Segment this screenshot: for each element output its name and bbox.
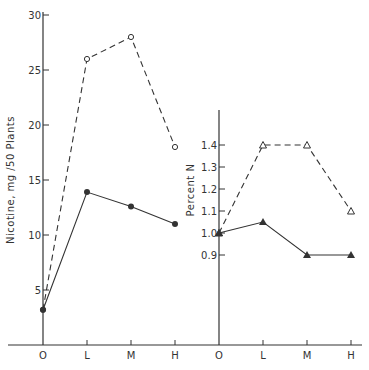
open-triangle-marker bbox=[348, 208, 355, 215]
y-tick-label: 1.4 bbox=[201, 140, 217, 151]
y-tick-label: 1.2 bbox=[201, 184, 217, 195]
y-tick-label: 1.1 bbox=[201, 206, 217, 217]
x-tick-label: M bbox=[303, 350, 312, 361]
x-tick-label: H bbox=[171, 350, 179, 361]
y-tick-label: 1.0 bbox=[201, 228, 217, 239]
filled-circle-marker bbox=[128, 203, 134, 209]
filled-circle-marker bbox=[40, 307, 46, 313]
x-tick-label: L bbox=[84, 350, 90, 361]
open-circle-marker bbox=[172, 144, 177, 149]
open-circle-marker bbox=[84, 56, 89, 61]
y-tick-label: 30 bbox=[28, 10, 41, 21]
open-circle-marker bbox=[128, 34, 133, 39]
x-tick-label: H bbox=[347, 350, 355, 361]
x-tick-label: O bbox=[215, 350, 223, 361]
chart-canvas: 51015202530OLMHNicotine, mg /50 Plants0.… bbox=[0, 0, 369, 370]
filled-circle-marker bbox=[84, 189, 90, 195]
y-axis-title: Nicotine, mg /50 Plants bbox=[5, 116, 16, 244]
y-tick-label: 5 bbox=[35, 285, 41, 296]
y-axis-title: Percent N bbox=[185, 164, 196, 217]
open-triangle-marker bbox=[304, 142, 311, 149]
y-tick-label: 10 bbox=[28, 230, 41, 241]
series-line-solid-filled-triangle bbox=[219, 222, 351, 255]
y-tick-label: 1.3 bbox=[201, 162, 217, 173]
series-line-dashed-open-triangle bbox=[219, 145, 351, 233]
y-tick-label: 25 bbox=[28, 65, 41, 76]
series-line-dashed-open-circle bbox=[43, 37, 175, 310]
series-line-solid-filled-circle bbox=[43, 192, 175, 310]
y-tick-label: 20 bbox=[28, 120, 41, 131]
y-tick-label: 15 bbox=[28, 175, 41, 186]
x-tick-label: L bbox=[260, 350, 266, 361]
x-tick-label: O bbox=[39, 350, 47, 361]
chart-figure: 51015202530OLMHNicotine, mg /50 Plants0.… bbox=[0, 0, 369, 370]
filled-circle-marker bbox=[172, 221, 178, 227]
y-tick-label: 0.9 bbox=[201, 250, 217, 261]
x-tick-label: M bbox=[127, 350, 136, 361]
filled-triangle-marker bbox=[259, 218, 267, 225]
